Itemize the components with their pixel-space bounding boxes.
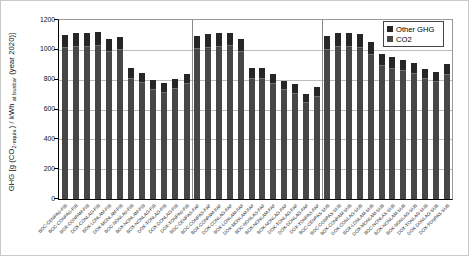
legend: Other GHG CO2: [383, 21, 444, 47]
bar-segment-co2: [227, 45, 233, 199]
bar-segment-other-ghg: [379, 54, 385, 65]
bar-segment-co2: [62, 47, 68, 199]
bar-segment-other-ghg: [84, 33, 90, 45]
bar-segment-other-ghg: [139, 73, 145, 82]
y-axis-title-part: ) / kWh: [7, 101, 16, 128]
y-tick-label: 0: [21, 195, 55, 202]
bar-segment-co2: [433, 81, 439, 199]
bar-segment-other-ghg: [444, 64, 450, 74]
bar-segment-co2: [238, 51, 244, 199]
legend-label-co2: CO2: [396, 35, 412, 44]
bar-segment-co2: [172, 88, 178, 199]
bar-segment-other-ghg: [400, 60, 406, 70]
bar-segment-co2: [422, 78, 428, 199]
bar-segment-co2: [281, 89, 287, 199]
bar-segment-co2: [117, 49, 123, 199]
group-separator: [192, 20, 193, 199]
y-tick-mark: [54, 168, 58, 169]
bar-segment-other-ghg: [62, 35, 68, 47]
bar-segment-co2: [357, 47, 363, 199]
bar-segment-other-ghg: [128, 68, 134, 78]
bar-segment-other-ghg: [346, 33, 352, 45]
y-tick-label: 1200: [21, 16, 55, 23]
ghg-bar-chart-figure: GHG [g (CO2-equiv.) / kWh at busbar (yea…: [0, 0, 469, 256]
bar-segment-other-ghg: [433, 72, 439, 82]
y-tick-label: 800: [21, 75, 55, 82]
legend-swatch-co2: [387, 36, 393, 42]
bar-segment-other-ghg: [411, 63, 417, 73]
bar-segment-other-ghg: [259, 68, 265, 78]
bar-segment-other-ghg: [106, 39, 112, 51]
bar-segment-other-ghg: [357, 34, 363, 46]
bar-segment-other-ghg: [303, 94, 309, 102]
bar-segment-other-ghg: [281, 81, 287, 90]
bar-segment-co2: [292, 93, 298, 199]
bar-segment-other-ghg: [249, 68, 255, 78]
bar-segment-other-ghg: [205, 34, 211, 46]
bar-segment-co2: [249, 78, 255, 199]
bar-segment-other-ghg: [368, 42, 374, 54]
bar-segment-co2: [95, 45, 101, 200]
bar-segment-other-ghg: [227, 33, 233, 46]
y-axis-title-part: GHG [g (CO: [7, 149, 16, 192]
bar-segment-other-ghg: [150, 80, 156, 89]
bar-segment-other-ghg: [194, 36, 200, 48]
bar-segment-co2: [303, 102, 309, 199]
y-tick-label: 1000: [21, 45, 55, 52]
y-tick-mark: [54, 79, 58, 80]
bar-segment-other-ghg: [324, 36, 330, 48]
bar-segment-co2: [346, 46, 352, 199]
bar-segment-other-ghg: [73, 33, 79, 45]
legend-entry-other-ghg: Other GHG: [387, 24, 440, 34]
bar-segment-other-ghg: [238, 39, 244, 51]
bar-segment-co2: [270, 83, 276, 199]
bar-segment-co2: [84, 46, 90, 199]
y-tick-mark: [54, 198, 58, 199]
bar-segment-co2: [161, 92, 167, 199]
y-tick-mark: [54, 49, 58, 50]
bar-segment-other-ghg: [184, 74, 190, 83]
bar-segment-co2: [411, 73, 417, 199]
bar-segment-co2: [400, 70, 406, 199]
legend-label-other-ghg: Other GHG: [396, 25, 434, 34]
bar-segment-co2: [389, 68, 395, 199]
bar-segment-co2: [314, 96, 320, 200]
y-axis-title-subscript: at busbar: [11, 77, 17, 101]
bar-segment-co2: [324, 49, 330, 199]
bar-segment-other-ghg: [95, 32, 101, 45]
group-separator: [322, 20, 323, 199]
bar-segment-co2: [73, 46, 79, 199]
y-tick-label: 400: [21, 135, 55, 142]
bar-segment-co2: [194, 48, 200, 199]
y-tick-label: 200: [21, 165, 55, 172]
bar-segment-co2: [444, 74, 450, 199]
bar-segment-other-ghg: [172, 79, 178, 88]
y-tick-mark: [54, 19, 58, 20]
bar-segment-co2: [184, 83, 190, 199]
bar-segment-other-ghg: [161, 83, 167, 92]
bar-segment-co2: [139, 82, 145, 199]
bar-segment-other-ghg: [117, 37, 123, 49]
y-tick-label: 600: [21, 105, 55, 112]
bar-segment-other-ghg: [216, 33, 222, 45]
bar-segment-co2: [216, 46, 222, 199]
bar-segment-other-ghg: [314, 87, 320, 95]
y-axis-title-subscript: 2-equiv.: [11, 128, 17, 148]
bar-segment-other-ghg: [270, 74, 276, 83]
bar-segment-co2: [150, 89, 156, 199]
y-axis-title-part: (year 2020)]: [7, 33, 16, 77]
bar-segment-co2: [335, 46, 341, 199]
bar-segment-other-ghg: [335, 33, 341, 45]
y-tick-mark: [54, 138, 58, 139]
y-axis-title: GHG [g (CO2-equiv.) / kWh at busbar (yea…: [7, 9, 19, 215]
bar-segment-co2: [205, 47, 211, 199]
bar-segment-other-ghg: [389, 57, 395, 68]
bar-segment-co2: [128, 78, 134, 199]
y-tick-mark: [54, 109, 58, 110]
bar-segment-other-ghg: [422, 69, 428, 79]
bar-segment-co2: [368, 54, 374, 199]
legend-entry-co2: CO2: [387, 34, 440, 44]
bar-segment-co2: [259, 78, 265, 199]
bar-segment-other-ghg: [292, 84, 298, 93]
bar-segment-co2: [379, 65, 385, 199]
